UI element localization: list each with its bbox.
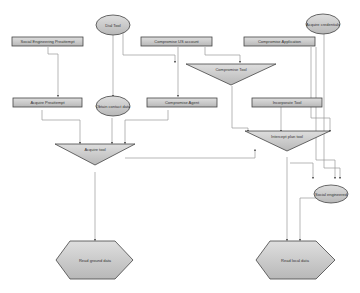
attack-tree-diagram: Social Engineering Preattempt Compromise… <box>0 0 360 293</box>
svg-text:Acquire Preattempt: Acquire Preattempt <box>30 100 65 105</box>
svg-text:Compromise Agent: Compromise Agent <box>165 100 200 105</box>
node-compromise-tool[interactable]: Compromise Tool <box>186 64 276 85</box>
svg-text:Read ground data: Read ground data <box>79 258 112 263</box>
svg-text:Read local data: Read local data <box>281 258 310 263</box>
svg-text:Intercept plan tool: Intercept plan tool <box>271 134 303 139</box>
svg-text:Social engineered: Social engineered <box>315 192 347 197</box>
node-incorporate-tool[interactable]: Incorporate Tool <box>252 98 322 107</box>
svg-text:Social Engineering Preattempt: Social Engineering Preattempt <box>20 39 75 44</box>
node-compromise-us-account[interactable]: Compromise US account <box>141 37 212 46</box>
node-acquire-credentials[interactable]: Acquire credentials <box>306 14 340 34</box>
node-social-engineered[interactable]: Social engineered <box>314 185 348 203</box>
svg-text:Dial Tool: Dial Tool <box>105 23 120 28</box>
node-social-engineering-preattempt[interactable]: Social Engineering Preattempt <box>12 37 83 46</box>
svg-text:Acquire credentials: Acquire credentials <box>306 22 340 27</box>
svg-text:Acquire tool: Acquire tool <box>84 147 105 152</box>
svg-text:Compromise Application: Compromise Application <box>258 39 301 44</box>
node-acquire-preattempt[interactable]: Acquire Preattempt <box>13 98 82 107</box>
node-read-local-data[interactable]: Read local data <box>256 241 335 279</box>
node-acquire-tool[interactable]: Acquire tool <box>55 144 135 165</box>
node-dial-tool[interactable]: Dial Tool <box>96 15 130 35</box>
node-obtain-contact-data[interactable]: Obtain contact data <box>96 96 131 116</box>
svg-text:Compromise Tool: Compromise Tool <box>215 67 246 72</box>
node-intercept-plan-tool[interactable]: Intercept plan tool <box>245 131 330 151</box>
svg-text:Compromise US account: Compromise US account <box>154 39 199 44</box>
node-compromise-application[interactable]: Compromise Application <box>244 37 315 46</box>
svg-text:Obtain contact data: Obtain contact data <box>96 104 131 109</box>
node-compromise-agent[interactable]: Compromise Agent <box>147 98 217 107</box>
svg-text:Incorporate Tool: Incorporate Tool <box>273 100 302 105</box>
node-read-ground-data[interactable]: Read ground data <box>56 241 133 279</box>
